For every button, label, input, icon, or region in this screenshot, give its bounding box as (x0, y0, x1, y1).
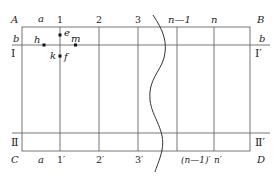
top-label-2: 2 (96, 14, 102, 25)
region-label-II: Ⅱ (11, 136, 18, 149)
outer-rectangle (22, 27, 250, 151)
region-label-I-prime: Ⅰ′ (255, 47, 262, 60)
point-label-k: k (50, 50, 56, 61)
point-e (59, 34, 62, 37)
point-h (43, 44, 46, 47)
bottom-gap-label: a (38, 154, 44, 165)
right-label-b: b (259, 33, 265, 44)
corner-label-d: D (256, 154, 265, 165)
point-label-m: m (71, 33, 80, 44)
bottom-label-n-minus-1: (n—1)′ (181, 155, 211, 165)
top-gap-label: a (38, 13, 44, 24)
bottom-label-3: 3′ (135, 154, 143, 165)
bottom-label-1: 1′ (57, 154, 65, 165)
point-f (59, 55, 62, 58)
bottom-label-2: 2′ (96, 154, 104, 165)
top-label-n-minus-1: n—1 (168, 14, 191, 25)
top-label-n: n (211, 14, 217, 25)
point-label-f: f (63, 51, 70, 62)
corner-label-b: B (256, 14, 264, 25)
point-label-h: h (34, 34, 40, 45)
diagram-canvas: A B C D a 1 2 3 n—1 n a 1′ 2′ 3′ (n—1)′ … (0, 0, 280, 179)
left-label-b: b (13, 33, 19, 44)
point-label-e: e (64, 27, 70, 38)
corner-label-c: C (11, 154, 19, 165)
top-label-1: 1 (57, 14, 63, 25)
bottom-label-n: n′ (214, 155, 222, 165)
region-label-I: Ⅰ (11, 47, 15, 60)
corner-label-a: A (10, 14, 18, 25)
top-label-3: 3 (135, 14, 141, 25)
region-label-II-prime: Ⅱ′ (255, 136, 265, 149)
wavy-break-line (150, 15, 166, 172)
